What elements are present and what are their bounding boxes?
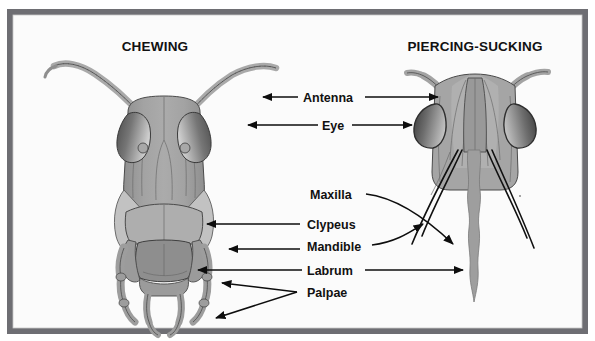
- callout-label-antenna: Antenna: [303, 91, 354, 105]
- insect-mouthparts-figure: CHEWING PIERCING-SUCKING: [0, 0, 595, 341]
- callout-label-clypeus: Clypeus: [307, 218, 356, 232]
- diagram-canvas: CHEWING PIERCING-SUCKING: [0, 0, 595, 341]
- callout-label-palpae: Palpae: [307, 286, 347, 300]
- callout-label-mandible: Mandible: [307, 240, 361, 254]
- callout-label-eye: Eye: [322, 119, 344, 133]
- callout-label-labrum: Labrum: [307, 264, 353, 278]
- callout-label-maxilla: Maxilla: [310, 188, 353, 202]
- antennal-socket-left: [138, 143, 148, 153]
- panel-heading-chewing: CHEWING: [122, 39, 189, 54]
- panel-heading-piercing-sucking: PIERCING-SUCKING: [407, 39, 542, 54]
- antennal-socket-right: [180, 143, 190, 153]
- ps-speck: [519, 195, 521, 197]
